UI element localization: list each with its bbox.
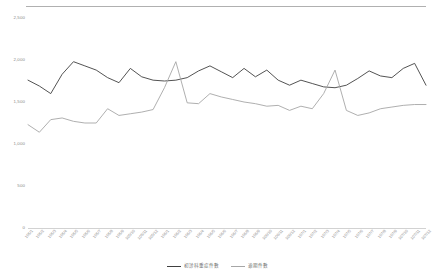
y-axis-tick-label: 1,500 <box>14 100 26 104</box>
x-axis-tick-label: 107/8 <box>377 229 387 239</box>
x-axis-tick-label: 106/11 <box>273 229 284 241</box>
x-axis-tick-label: 107/4 <box>331 229 341 239</box>
x-axis-tick-label: 106/8 <box>240 229 250 239</box>
plot-area <box>28 18 426 228</box>
y-axis-tick-label: 2,000 <box>14 58 26 62</box>
x-axis-tick-label: 106/1 <box>161 229 171 239</box>
x-axis-tick-label: 107/5 <box>343 229 353 239</box>
line-chart: 05001,0001,5002,0002,500 105/1105/2105/3… <box>0 0 434 278</box>
y-axis-labels: 05001,0001,5002,0002,500 <box>0 0 28 246</box>
x-axis-tick-label: 107/12 <box>421 229 432 241</box>
top-divider <box>26 6 426 7</box>
legend-label: 逾期件數 <box>248 264 268 269</box>
x-axis-tick-label: 105/2 <box>36 229 46 239</box>
series-canvas <box>28 18 426 228</box>
x-axis-tick-label: 107/11 <box>410 229 421 241</box>
y-axis-tick-label: 0 <box>22 226 25 230</box>
x-axis-tick-label: 105/4 <box>58 229 68 239</box>
x-axis-tick-label: 107/1 <box>297 229 307 239</box>
legend-label: 初診科重症件數 <box>184 264 219 269</box>
x-axis-tick-label: 107/3 <box>320 229 330 239</box>
x-axis-tick-label: 107/7 <box>365 229 375 239</box>
x-axis-tick-label: 106/5 <box>206 229 216 239</box>
y-axis-tick-label: 500 <box>17 184 25 188</box>
x-axis-tick-label: 105/7 <box>93 229 103 239</box>
x-axis-tick-label: 107/10 <box>398 229 409 241</box>
series-line <box>28 62 426 94</box>
x-axis-tick-label: 105/8 <box>104 229 114 239</box>
chart-legend: 初診科重症件數逾期件數 <box>0 264 434 269</box>
x-axis-tick-label: 105/12 <box>148 229 159 241</box>
x-axis-tick-label: 106/6 <box>218 229 228 239</box>
x-axis-tick-label: 105/10 <box>125 229 136 241</box>
x-axis-tick-label: 106/2 <box>172 229 182 239</box>
legend-item[interactable]: 初診科重症件數 <box>167 264 219 269</box>
x-axis-labels: 105/1105/2105/3105/4105/5105/6105/7105/8… <box>28 229 426 259</box>
x-axis-tick-label: 106/3 <box>183 229 193 239</box>
x-axis-tick-label: 105/6 <box>81 229 91 239</box>
x-axis-tick-label: 107/2 <box>309 229 319 239</box>
x-axis-tick-label: 105/3 <box>47 229 57 239</box>
x-axis-tick-label: 105/11 <box>137 229 148 241</box>
x-axis-tick-label: 105/5 <box>70 229 80 239</box>
legend-line-swatch <box>167 266 181 267</box>
legend-item[interactable]: 逾期件數 <box>231 264 268 269</box>
y-axis-tick-label: 1,000 <box>14 142 26 146</box>
x-axis-tick-label: 106/4 <box>195 229 205 239</box>
x-axis-tick-label: 106/9 <box>252 229 262 239</box>
y-axis-tick-label: 2,500 <box>14 16 26 20</box>
x-axis-tick-label: 106/10 <box>262 229 273 241</box>
legend-line-swatch <box>231 266 245 267</box>
series-line <box>28 62 426 133</box>
x-axis-tick-label: 106/12 <box>284 229 295 241</box>
x-axis-tick-label: 107/6 <box>354 229 364 239</box>
x-axis-tick-label: 106/7 <box>229 229 239 239</box>
